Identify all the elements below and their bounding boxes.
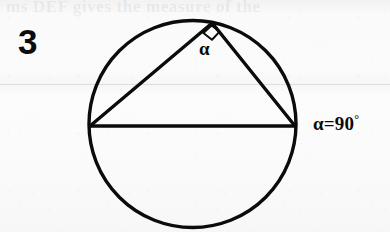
figure-canvas: ms DEF gives the measure of the 3 α α=90… bbox=[0, 0, 390, 232]
equation-variable: α bbox=[313, 113, 324, 134]
equation-operator: = bbox=[324, 113, 335, 134]
equation-value: 90 bbox=[335, 113, 354, 134]
angle-equation-label: α=90° bbox=[313, 113, 359, 133]
angle-alpha-label: α bbox=[199, 39, 210, 58]
circle-shape bbox=[89, 21, 296, 228]
triangle-leg-left bbox=[90, 24, 211, 126]
degree-symbol: ° bbox=[354, 112, 359, 126]
figure-number-label: 3 bbox=[18, 24, 37, 59]
